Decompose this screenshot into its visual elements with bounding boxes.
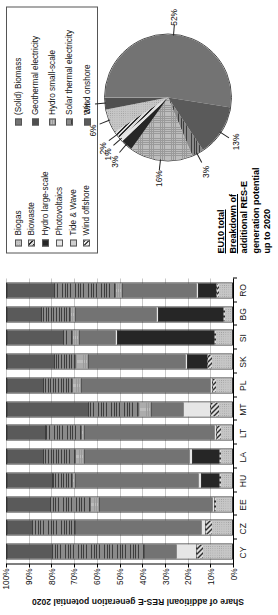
x-axis-labels: CYCZEEHULALTMTPLSKSIBGRO (236, 278, 258, 564)
legend-label: Tide & Wave (69, 189, 78, 235)
legend-label: Solar thermal electricity (65, 29, 74, 114)
legend-item: Tide & Wave (67, 134, 79, 247)
y-tick-mark (233, 563, 234, 567)
bar-segment (219, 283, 233, 297)
bar-chart-panel: Share of additioanl RES-E generation pot… (0, 263, 278, 615)
bar-segment (84, 425, 215, 439)
bar-segment (214, 425, 216, 439)
bar-segment (176, 544, 196, 558)
bar-segment (212, 354, 232, 368)
bar-segment (7, 473, 52, 487)
y-tick-label: 0% (230, 568, 239, 580)
legend: BiogasBiowasteHydro large-scalePhotovolt… (6, 6, 98, 253)
bar-segment (196, 544, 203, 558)
y-tick-label: 10% (207, 568, 216, 584)
legend-item: Photovoltaics (53, 134, 65, 247)
bar-ro[interactable] (6, 282, 233, 298)
pie-title-line1: Breakdown of (228, 161, 240, 253)
bar-segment (72, 330, 79, 344)
legend-item: Solar thermal electricity (64, 13, 76, 126)
bar-segment (201, 520, 206, 534)
legend-label: Hydro small-scale (48, 49, 57, 114)
bar-segment (43, 449, 75, 463)
legend-label: Geothermal electricity (31, 35, 40, 114)
bar-segment (219, 402, 233, 416)
x-label-cy: CY (238, 546, 248, 558)
bar-segment (75, 354, 89, 368)
legend-label: Photovoltaics (55, 186, 64, 235)
bar-segment (90, 497, 99, 511)
bar-segment (221, 449, 232, 463)
bar-segment (225, 307, 232, 321)
bar-segment (75, 473, 199, 487)
bar-lt[interactable] (6, 424, 233, 440)
legend-swatch-icon (66, 119, 73, 126)
bar-sk[interactable] (6, 353, 233, 369)
y-tick-label: 30% (161, 568, 170, 584)
pie-leader-line (159, 159, 161, 170)
bar-segment (7, 354, 54, 368)
bar-ee[interactable] (6, 496, 233, 512)
bar-segment (158, 307, 223, 321)
y-tick-mark (74, 563, 75, 567)
y-tick-mark (188, 563, 189, 567)
legend-item: Geothermal electricity (29, 13, 41, 126)
bar-segment (196, 283, 198, 297)
y-tick-label: 100% (2, 568, 11, 589)
bar-segment (144, 544, 176, 558)
pie-title-line3: generation potential (251, 167, 261, 253)
bar-segment (79, 330, 115, 344)
legend-label: Biogas (14, 210, 23, 235)
bar-mt[interactable] (6, 401, 233, 417)
bar-segment (207, 354, 212, 368)
bar-segment (122, 283, 196, 297)
y-axis-label: Share of additioanl RES-E generation pot… (0, 589, 278, 613)
bar-segment (212, 497, 214, 511)
bar-segment (75, 520, 201, 534)
legend-swatch-icon (15, 239, 22, 246)
bar-segment (187, 354, 207, 368)
x-label-la: LA (238, 451, 248, 462)
pie-title-eu10: EU10 total (216, 161, 228, 253)
bar-segment (183, 402, 210, 416)
bar-la[interactable] (6, 448, 233, 464)
bar-segment (156, 307, 158, 321)
bar-si[interactable] (6, 329, 233, 345)
x-label-ee: EE (238, 499, 248, 510)
bar-segment (63, 330, 72, 344)
bar-segment (75, 449, 84, 463)
bar-segment (151, 402, 183, 416)
legend-item: Hydro small-scale (47, 13, 59, 126)
bar-segment (198, 473, 200, 487)
legend-item: Biogas (12, 134, 24, 247)
x-label-cz: CZ (238, 523, 248, 534)
bar-bg[interactable] (6, 306, 233, 322)
bar-pl[interactable] (6, 377, 233, 393)
legend-swatch-icon (70, 239, 77, 246)
bar-segment (203, 544, 232, 558)
pie-value-label: 3% (201, 165, 211, 177)
bar-segment (117, 330, 214, 344)
legend-column-1: BiogasBiowasteHydro large-scalePhotovolt… (12, 134, 93, 247)
bar-segment (216, 330, 232, 344)
legend-swatch-icon (15, 119, 22, 126)
bar-segment (205, 520, 212, 534)
pie-value-label: 16% (154, 170, 164, 187)
y-tick-mark (97, 563, 98, 567)
bar-cy[interactable] (6, 543, 233, 559)
legend-swatch-icon (56, 239, 63, 246)
bar-segment (7, 402, 88, 416)
bar-segment (54, 283, 115, 297)
bar-segment (7, 544, 52, 558)
bar-cz[interactable] (6, 519, 233, 535)
bar-segment (189, 449, 191, 463)
bar-hu[interactable] (6, 472, 233, 488)
y-tick-mark (120, 563, 121, 567)
bar-segment (7, 520, 32, 534)
legend-swatch-icon (49, 119, 56, 126)
y-axis-ticks: 0%10%20%30%40%50%60%70%80%90%100% (6, 565, 234, 591)
pie-value-label: 52% (169, 9, 179, 26)
legend-item: Wind offshore (81, 134, 93, 247)
bar-segment (221, 425, 232, 439)
y-tick-label: 20% (184, 568, 193, 584)
